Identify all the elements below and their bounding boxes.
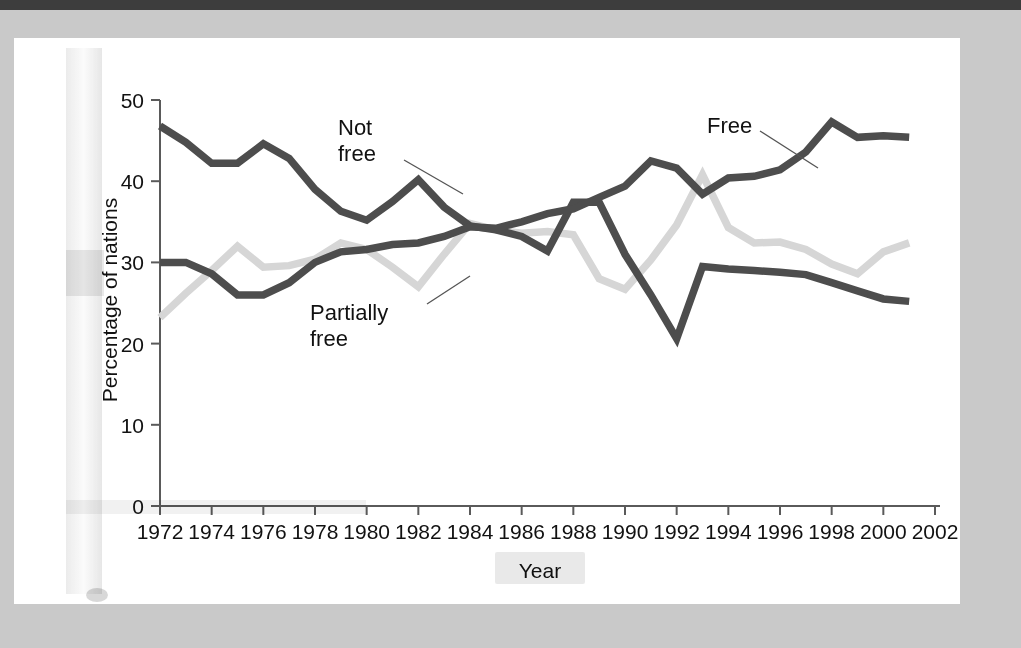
y-tick-label: 20: [121, 333, 144, 356]
x-tick-label: 1992: [653, 520, 700, 543]
tape-artifact-bottom-strip: [66, 500, 366, 514]
chart-axes: [160, 100, 940, 506]
annotation-free-line1: Free: [707, 113, 752, 138]
y-tick-label: 40: [121, 170, 144, 193]
x-tick-label: 1978: [292, 520, 339, 543]
leader-line-partially-free: [427, 276, 470, 304]
x-tick-label: 1980: [343, 520, 390, 543]
annotation-partially-free-line2: free: [310, 326, 348, 351]
x-tick-label: 1984: [447, 520, 494, 543]
annotation-not-free-line2: free: [338, 141, 376, 166]
x-tick-label: 1986: [498, 520, 545, 543]
y-tick-label: 10: [121, 414, 144, 437]
scan-smudge: [86, 588, 108, 602]
line-chart: 01020304050 1972197419761978198019821984…: [0, 0, 1021, 648]
x-tick-label: 1972: [137, 520, 184, 543]
x-tick-label: 1998: [808, 520, 855, 543]
x-tick-label: 1982: [395, 520, 442, 543]
x-tick-label: 1996: [757, 520, 804, 543]
scanned-chart-page: 01020304050 1972197419761978198019821984…: [0, 0, 1021, 648]
tape-artifact-year-label: [495, 552, 585, 584]
x-tick-label: 1976: [240, 520, 287, 543]
y-tick-label: 50: [121, 89, 144, 112]
y-axis-ticks: [151, 100, 160, 506]
x-tick-label: 1974: [188, 520, 235, 543]
x-tick-label: 1988: [550, 520, 597, 543]
x-tick-label: 2002: [912, 520, 959, 543]
x-tick-label: 2000: [860, 520, 907, 543]
annotation-partially-free-line1: Partially: [310, 300, 388, 325]
annotation-not-free-line1: Not: [338, 115, 372, 140]
x-tick-label: 1990: [602, 520, 649, 543]
tape-artifact-left-patch: [66, 250, 104, 296]
x-axis-tick-labels: 1972197419761978198019821984198619881990…: [137, 520, 959, 543]
x-tick-label: 1994: [705, 520, 752, 543]
y-tick-label: 30: [121, 251, 144, 274]
y-axis-tick-labels: 01020304050: [121, 89, 144, 518]
